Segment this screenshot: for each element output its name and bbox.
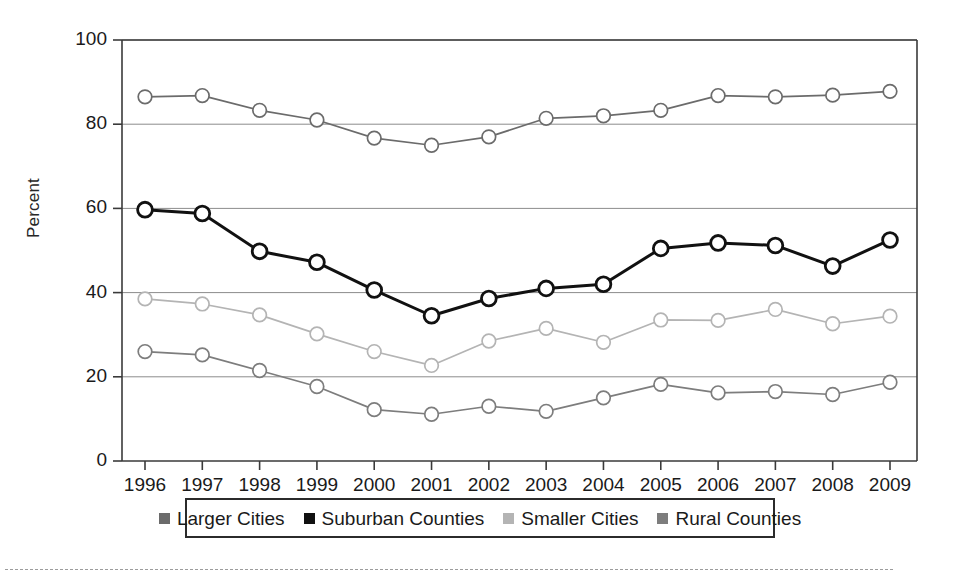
data-point xyxy=(367,131,381,145)
data-point xyxy=(826,317,840,331)
x-tick-label-2003: 2003 xyxy=(516,474,576,496)
y-axis-title: Percent xyxy=(24,148,44,268)
x-tick-label-2005: 2005 xyxy=(631,474,691,496)
data-point xyxy=(711,236,726,251)
x-tick-label-1999: 1999 xyxy=(287,474,347,496)
legend-entry-suburban-counties[interactable]: Suburban Counties xyxy=(304,509,485,528)
data-point xyxy=(195,206,210,221)
data-point xyxy=(310,327,324,341)
data-point xyxy=(367,403,381,417)
data-point xyxy=(768,238,783,253)
data-point xyxy=(883,309,897,323)
x-tick-label-1996: 1996 xyxy=(115,474,175,496)
series-larger-cities xyxy=(138,85,897,152)
data-point xyxy=(826,388,840,402)
data-point xyxy=(653,241,668,256)
data-point xyxy=(711,89,725,103)
data-point xyxy=(539,281,554,296)
data-point xyxy=(138,202,153,217)
data-point xyxy=(825,259,840,274)
data-point xyxy=(597,335,611,349)
legend-entry-rural-counties[interactable]: Rural Counties xyxy=(657,509,801,528)
series-rural-counties xyxy=(138,345,897,421)
series-smaller-cities xyxy=(138,292,897,372)
data-point xyxy=(654,104,668,118)
x-tick-label-2008: 2008 xyxy=(803,474,863,496)
data-point xyxy=(597,109,611,123)
legend-swatch-icon xyxy=(159,513,170,524)
chart-plot-area: Percent 020406080100 1996199719981999200… xyxy=(0,0,956,500)
data-point xyxy=(539,322,553,336)
x-tick-label-1998: 1998 xyxy=(230,474,290,496)
y-tick-label-100: 100 xyxy=(51,28,107,50)
data-point xyxy=(769,385,783,399)
data-point xyxy=(482,334,496,348)
data-point xyxy=(310,380,324,394)
data-point xyxy=(425,138,439,152)
x-tick-label-1997: 1997 xyxy=(172,474,232,496)
y-tick-label-40: 40 xyxy=(51,281,107,303)
x-axis-ticks-group xyxy=(145,461,890,470)
data-point xyxy=(367,283,382,298)
axis-frame-group xyxy=(122,40,917,461)
x-tick-label-2009: 2009 xyxy=(860,474,920,496)
data-point xyxy=(769,90,783,104)
data-point xyxy=(597,391,611,405)
data-point xyxy=(138,292,152,306)
y-tick-label-20: 20 xyxy=(51,365,107,387)
y-tick-label-80: 80 xyxy=(51,112,107,134)
data-series-group xyxy=(138,85,898,422)
data-point xyxy=(138,90,152,104)
chart-legend: Larger CitiesSuburban CountiesSmaller Ci… xyxy=(185,498,775,538)
data-point xyxy=(826,88,840,102)
data-point xyxy=(196,348,210,362)
gridlines-group xyxy=(122,40,917,377)
y-tick-label-60: 60 xyxy=(51,196,107,218)
legend-label: Suburban Counties xyxy=(322,509,485,528)
legend-entry-smaller-cities[interactable]: Smaller Cities xyxy=(503,509,638,528)
data-point xyxy=(482,399,496,413)
x-tick-label-2004: 2004 xyxy=(573,474,633,496)
x-tick-label-2002: 2002 xyxy=(459,474,519,496)
series-suburban-counties xyxy=(138,202,898,323)
y-axis-ticks-group xyxy=(113,40,122,461)
data-point xyxy=(654,378,668,392)
data-point xyxy=(596,277,611,292)
series-line xyxy=(145,352,890,415)
data-point xyxy=(481,291,496,306)
line-chart-svg xyxy=(0,0,956,500)
legend-label: Rural Counties xyxy=(675,509,801,528)
legend-entry-larger-cities[interactable]: Larger Cities xyxy=(159,509,285,528)
data-point xyxy=(482,130,496,144)
data-point xyxy=(138,345,152,359)
legend-label: Larger Cities xyxy=(177,509,285,528)
data-point xyxy=(424,308,439,323)
legend-swatch-icon xyxy=(657,513,668,524)
x-tick-label-2006: 2006 xyxy=(688,474,748,496)
legend-swatch-icon xyxy=(503,513,514,524)
data-point xyxy=(253,364,267,378)
data-point xyxy=(252,244,267,259)
data-point xyxy=(883,375,897,389)
y-tick-label-0: 0 xyxy=(51,449,107,471)
data-point xyxy=(769,303,783,317)
data-point xyxy=(196,297,210,311)
data-point xyxy=(883,233,898,248)
data-point xyxy=(425,407,439,421)
data-point xyxy=(425,359,439,373)
data-point xyxy=(539,112,553,126)
data-point xyxy=(196,89,210,103)
x-tick-label-2007: 2007 xyxy=(745,474,805,496)
legend-swatch-icon xyxy=(304,513,315,524)
data-point xyxy=(711,386,725,400)
figure-container: Percent 020406080100 1996199719981999200… xyxy=(0,0,956,583)
data-point xyxy=(711,314,725,328)
data-point xyxy=(310,113,324,127)
data-point xyxy=(310,255,325,270)
data-point xyxy=(883,85,897,99)
data-point xyxy=(367,345,381,359)
data-point xyxy=(253,104,267,118)
data-point xyxy=(253,308,267,322)
data-point xyxy=(654,313,668,327)
page-dotted-rule xyxy=(4,568,894,571)
